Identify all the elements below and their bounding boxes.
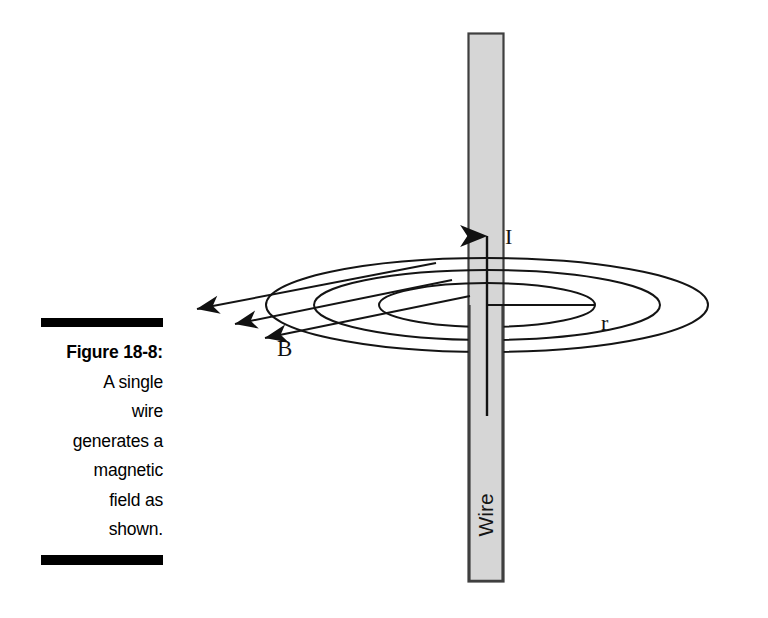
magnetic-field-diagram: [0, 0, 768, 618]
field-direction-arrow-group: [197, 263, 470, 338]
field-arrow-outer: [197, 263, 436, 309]
field-arrow-inner: [265, 296, 470, 338]
figure-18-8: Figure 18-8: A single wire generates a m…: [0, 0, 768, 618]
field-arrow-middle: [235, 280, 452, 324]
